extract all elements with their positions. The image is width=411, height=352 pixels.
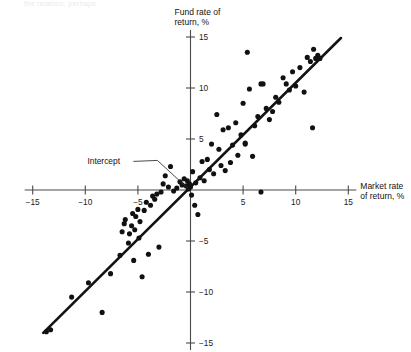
data-point [127, 231, 132, 236]
data-point [310, 125, 315, 130]
data-point [132, 227, 137, 232]
data-point [214, 112, 219, 117]
data-point [168, 164, 173, 169]
data-point [202, 178, 207, 183]
annotations-group: Intercept [87, 156, 120, 166]
data-point [146, 252, 151, 257]
data-point [123, 217, 128, 222]
data-point [120, 229, 125, 234]
y-tick-label--5: −5 [199, 236, 209, 246]
data-point [200, 159, 205, 164]
data-point [108, 271, 113, 276]
y-axis-title-line1: Fund rate of [175, 7, 221, 17]
data-point [255, 114, 260, 119]
x-tick-label-10: 10 [291, 197, 301, 207]
data-point [305, 55, 310, 60]
data-point [308, 59, 313, 64]
data-point [290, 69, 295, 74]
data-point [117, 253, 122, 258]
plot-canvas: −15−10−551015−15−10−551015 Fund rate ofr… [0, 0, 411, 352]
data-point [267, 117, 272, 122]
x-tick-label--5: −5 [133, 197, 143, 207]
data-point [207, 167, 212, 172]
data-point [297, 65, 302, 70]
data-point [69, 295, 74, 300]
data-point [48, 327, 53, 332]
data-point [136, 235, 141, 240]
data-point [156, 245, 161, 250]
data-point [192, 203, 197, 208]
data-point [131, 258, 136, 263]
data-point [243, 142, 248, 147]
y-tick-label-15: 15 [199, 32, 209, 42]
data-point [233, 120, 238, 125]
data-point [148, 203, 153, 208]
data-point [247, 86, 252, 91]
data-point [228, 160, 233, 165]
data-point [100, 310, 105, 315]
data-point [293, 83, 298, 88]
data-point [221, 127, 226, 132]
y-tick-label--10: −10 [199, 287, 213, 297]
data-point [223, 168, 228, 173]
data-point [258, 189, 263, 194]
y-axis-title-line2: return, % [175, 17, 210, 27]
data-point [193, 180, 198, 185]
data-point [144, 200, 149, 205]
data-point [230, 143, 235, 148]
data-point [287, 87, 292, 92]
y-tick-label-10: 10 [199, 83, 209, 93]
data-point [311, 47, 316, 52]
data-point [261, 81, 266, 86]
data-point [152, 197, 157, 202]
data-point [245, 50, 250, 55]
x-tick-label--10: −10 [78, 197, 92, 207]
data-point [137, 219, 142, 224]
data-point [284, 81, 289, 86]
scatter-plot-figure: the relation, perhaps −15−10−551015−15−1… [0, 0, 411, 352]
data-point [174, 185, 179, 190]
data-point [126, 240, 131, 245]
data-point [276, 100, 281, 105]
data-point [140, 274, 145, 279]
data-point [302, 90, 307, 95]
data-point [129, 223, 134, 228]
data-point [142, 208, 147, 213]
data-point [218, 163, 223, 168]
data-point [195, 212, 200, 217]
x-axis-title-line1: Market rate [360, 181, 403, 191]
data-point [161, 181, 166, 186]
data-point [281, 75, 286, 80]
data-point [166, 184, 171, 189]
x-tick-label-5: 5 [241, 197, 246, 207]
intercept-annotation-label: Intercept [87, 156, 120, 166]
data-point [86, 280, 91, 285]
data-point [135, 207, 140, 212]
data-point [226, 125, 231, 130]
data-point [264, 106, 269, 111]
data-point [190, 169, 195, 174]
data-point [158, 189, 163, 194]
y-tick-label-5: 5 [199, 134, 204, 144]
data-point [270, 109, 275, 114]
data-point [235, 153, 240, 158]
data-point [317, 56, 322, 61]
data-point [216, 147, 221, 152]
data-point [252, 123, 257, 128]
x-tick-label--15: −15 [26, 197, 40, 207]
data-point [189, 193, 194, 198]
data-point [133, 214, 138, 219]
data-point [238, 132, 243, 137]
data-point [211, 171, 216, 176]
data-point [197, 175, 202, 180]
data-point [163, 173, 168, 178]
data-point [273, 95, 278, 100]
x-tick-label-15: 15 [344, 197, 354, 207]
x-axis-title-line2: of return, % [360, 191, 404, 201]
y-tick-label--15: −15 [199, 338, 213, 348]
data-point [209, 142, 214, 147]
data-point [250, 154, 255, 159]
data-point [205, 157, 210, 162]
data-point [241, 101, 246, 106]
